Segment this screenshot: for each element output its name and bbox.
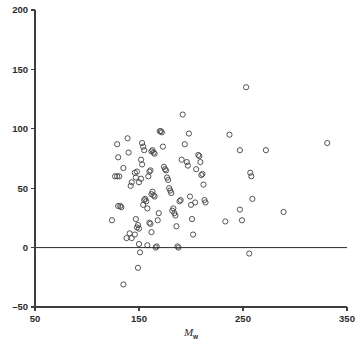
data-point (126, 150, 131, 155)
data-point (154, 244, 159, 249)
data-point (237, 207, 242, 212)
x-tick-label: 150 (131, 313, 147, 324)
data-point (141, 144, 146, 149)
data-point (133, 175, 138, 180)
data-point (174, 224, 179, 229)
data-point (189, 216, 194, 221)
data-point (198, 159, 203, 164)
data-point (109, 218, 114, 223)
data-point (145, 206, 150, 211)
data-point (125, 136, 130, 141)
data-point (250, 196, 255, 201)
data-point (178, 197, 183, 202)
data-point (140, 162, 145, 167)
data-point (185, 163, 190, 168)
data-point (281, 209, 286, 214)
data-point (325, 140, 330, 145)
data-point (200, 171, 205, 176)
data-point (179, 157, 184, 162)
axis-tick-labels-layer: –5005010015020050150250350 (12, 4, 355, 324)
data-point (140, 140, 145, 145)
axis-title-layer: Mw (183, 326, 199, 340)
data-point (249, 174, 254, 179)
data-point (193, 200, 198, 205)
data-points-layer (109, 85, 329, 287)
data-point (194, 167, 199, 172)
x-tick-label: 350 (339, 313, 355, 324)
data-point (145, 243, 150, 248)
data-point (201, 182, 206, 187)
data-point (182, 142, 187, 147)
data-point (124, 236, 129, 241)
plot-canvas: –5005010015020050150250350 Mw (0, 0, 362, 344)
y-tick-label: 0 (23, 242, 28, 253)
data-point (247, 251, 252, 256)
data-point (121, 165, 126, 170)
data-point (223, 219, 228, 224)
data-point (184, 159, 189, 164)
data-point (248, 170, 253, 175)
data-point (149, 230, 154, 235)
data-point (136, 241, 141, 246)
data-point (115, 142, 120, 147)
data-point (133, 216, 138, 221)
data-point (190, 232, 195, 237)
data-point (148, 221, 153, 226)
data-point (132, 232, 137, 237)
y-tick-label: –50 (12, 301, 28, 312)
data-point (116, 155, 121, 160)
data-point (119, 205, 124, 210)
data-point (121, 282, 126, 287)
data-point (137, 250, 142, 255)
data-point (129, 180, 134, 185)
data-point (142, 148, 147, 153)
data-point (263, 148, 268, 153)
data-point (148, 168, 153, 173)
x-tick-label: 50 (30, 313, 41, 324)
axis-layer (35, 10, 347, 307)
data-point (197, 154, 202, 159)
data-point (239, 218, 244, 223)
x-tick-label: 250 (235, 313, 251, 324)
y-tick-label: 200 (12, 4, 28, 15)
y-tick-label: 150 (12, 64, 28, 75)
data-point (155, 218, 160, 223)
data-point (237, 148, 242, 153)
data-point (128, 183, 133, 188)
x-axis-title: Mw (183, 326, 199, 340)
data-point (160, 144, 165, 149)
data-point (135, 265, 140, 270)
data-point (180, 112, 185, 117)
y-tick-label: 100 (12, 123, 28, 134)
scatter-plot-figure: –5005010015020050150250350 Mw (0, 0, 362, 344)
data-point (186, 131, 191, 136)
data-point (244, 85, 249, 90)
data-point (187, 194, 192, 199)
data-point (227, 132, 232, 137)
y-tick-label: 50 (17, 183, 28, 194)
data-point (156, 211, 161, 216)
